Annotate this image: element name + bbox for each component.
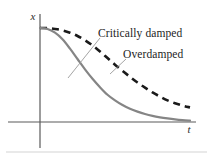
chart-background (0, 0, 213, 163)
y-axis-label: x (30, 10, 36, 22)
annotation-critically-damped: Critically damped (98, 27, 183, 40)
annotation-overdamped: Overdamped (123, 48, 184, 61)
damped-oscillation-figure: x t Critically damped Overdamped (0, 0, 213, 163)
chart-canvas: x t Critically damped Overdamped (0, 0, 213, 163)
